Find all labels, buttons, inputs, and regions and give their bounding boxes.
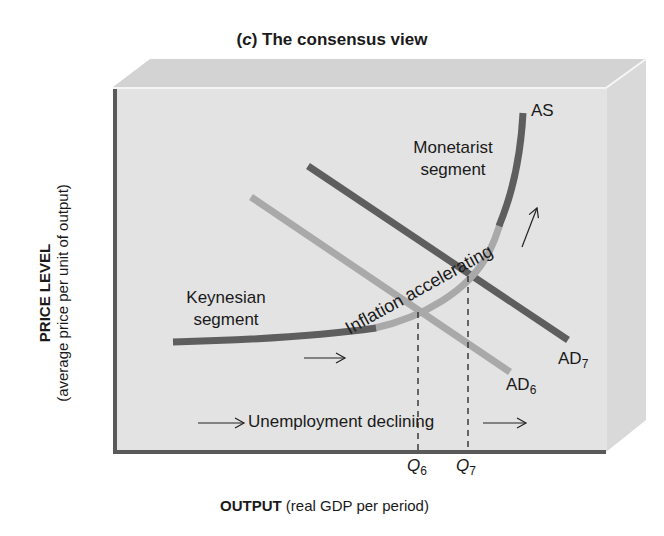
y-axis-label: PRICE LEVEL (average price per unit of o… bbox=[36, 143, 72, 443]
q7-subscript: 7 bbox=[469, 464, 476, 478]
keynesian-line2: segment bbox=[193, 310, 258, 329]
q6-letter: Q bbox=[407, 456, 420, 475]
ad7-subscript: 7 bbox=[582, 357, 589, 371]
ad7-text: AD bbox=[558, 349, 582, 368]
monetarist-line1: Monetarist bbox=[413, 138, 492, 157]
q7-letter: Q bbox=[456, 456, 469, 475]
x-axis-label-sub: (real GDP per period) bbox=[286, 497, 429, 514]
unemployment-declining-label: Unemployment declining bbox=[248, 411, 434, 433]
chart-canvas bbox=[0, 0, 664, 536]
box-side-face bbox=[606, 59, 646, 452]
y-axis-label-main: PRICE LEVEL bbox=[36, 143, 54, 443]
q7-tick-label: Q7 bbox=[456, 456, 476, 478]
monetarist-segment-label: Monetarist segment bbox=[398, 137, 508, 181]
ad6-text: AD bbox=[506, 375, 530, 394]
ad6-subscript: 6 bbox=[530, 383, 537, 397]
keynesian-line1: Keynesian bbox=[186, 288, 265, 307]
x-axis-label-main: OUTPUT bbox=[220, 497, 282, 514]
q6-subscript: 6 bbox=[420, 464, 427, 478]
monetarist-line2: segment bbox=[420, 160, 485, 179]
ad7-label: AD7 bbox=[558, 348, 588, 375]
ad6-label: AD6 bbox=[506, 374, 536, 401]
x-axis-label: OUTPUT (real GDP per period) bbox=[220, 497, 429, 514]
y-axis-label-sub: (average price per unit of output) bbox=[54, 143, 72, 443]
box-top-face bbox=[113, 59, 646, 87]
keynesian-segment-label: Keynesian segment bbox=[176, 287, 276, 331]
q6-tick-label: Q6 bbox=[407, 456, 427, 478]
as-label: AS bbox=[531, 100, 554, 122]
